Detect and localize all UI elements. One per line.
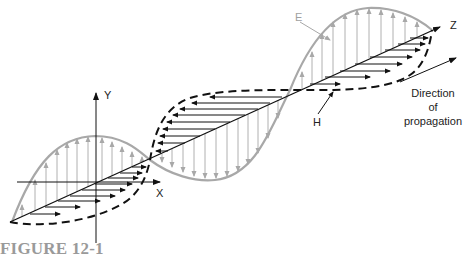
z-axis-label: Z xyxy=(450,20,457,31)
e-field-vectors xyxy=(22,9,417,217)
direction-of-propagation-label: Direction of propagation xyxy=(398,86,468,128)
em-wave-diagram xyxy=(0,0,468,263)
h-label-pointer xyxy=(318,92,333,114)
z-axis xyxy=(10,27,440,222)
figure-caption: FIGURE 12-1 xyxy=(0,239,104,259)
direction-line-2: of xyxy=(398,100,468,114)
h-field-label: H xyxy=(313,117,321,128)
h-field-vectors xyxy=(30,38,428,214)
e-field-label: E xyxy=(295,12,302,23)
y-axis-label: Y xyxy=(104,90,111,101)
direction-line-3: propagation xyxy=(398,114,468,128)
direction-line-1: Direction xyxy=(398,86,468,100)
x-axis-label: X xyxy=(156,188,163,199)
propagation-arrow xyxy=(400,58,456,82)
